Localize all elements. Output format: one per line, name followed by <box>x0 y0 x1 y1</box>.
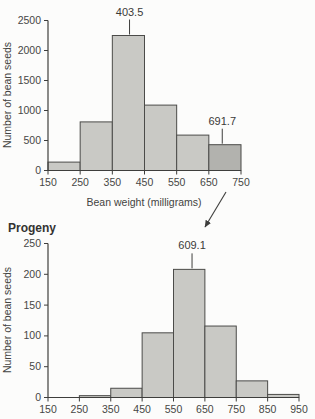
histogram-bar-450-550 <box>142 333 173 398</box>
histogram-bar-250-350 <box>80 122 112 171</box>
progeny-histogram: 0501001502002501502503504505506507508509… <box>23 237 307 415</box>
progeny-chart-title: Progeny <box>8 221 56 235</box>
x-tick-label: 150 <box>39 403 57 415</box>
histogram-bar-150-250 <box>48 162 80 170</box>
histogram-bar-550-650 <box>177 135 209 170</box>
y-tick-label: 1000 <box>18 104 42 116</box>
x-tick-label: 350 <box>102 403 120 415</box>
y-tick-label: 1500 <box>18 74 42 86</box>
parents-y-axis-label: Number of bean seeds <box>1 42 13 148</box>
histogram-bar-650-750 <box>209 145 241 171</box>
histogram-bar-650-750 <box>205 326 236 397</box>
y-tick-label: 0 <box>35 391 41 403</box>
x-tick-label: 850 <box>259 403 277 415</box>
histogram-bar-750-850 <box>236 381 267 398</box>
x-tick-label: 550 <box>165 403 183 415</box>
parents-histogram: 0500100015002000250015025035045055065075… <box>18 6 250 188</box>
parents-x-axis-label: Bean weight (milligrams) <box>87 196 202 208</box>
y-tick-label: 50 <box>29 360 41 372</box>
x-tick-label: 250 <box>71 176 89 188</box>
x-tick-label: 550 <box>168 176 186 188</box>
y-tick-label: 250 <box>23 237 41 249</box>
x-tick-label: 750 <box>227 403 245 415</box>
mean-value-label: 691.7 <box>208 115 236 127</box>
figure-page: Parents 05001000150020002500150250350450… <box>0 0 315 419</box>
x-tick-label: 450 <box>133 403 151 415</box>
x-tick-label: 650 <box>200 176 218 188</box>
x-tick-label: 450 <box>136 176 154 188</box>
histogram-bar-450-550 <box>145 105 177 170</box>
x-tick-label: 150 <box>39 176 57 188</box>
x-tick-label: 650 <box>196 403 214 415</box>
histogram-bar-350-450 <box>111 388 142 397</box>
y-tick-label: 100 <box>23 329 41 341</box>
mean-value-label: 403.5 <box>116 6 144 18</box>
histogram-bar-350-450 <box>112 36 144 171</box>
y-tick-label: 0 <box>35 164 41 176</box>
progeny-y-axis-label: Number of bean seeds <box>1 267 13 373</box>
x-tick-label: 750 <box>232 176 250 188</box>
x-tick-label: 950 <box>290 403 308 415</box>
y-tick-label: 2000 <box>18 44 42 56</box>
y-tick-label: 2500 <box>18 14 42 26</box>
y-tick-label: 500 <box>23 134 41 146</box>
selection-arrow <box>205 192 226 227</box>
mean-value-label: 609.1 <box>178 239 206 251</box>
x-tick-label: 350 <box>104 176 122 188</box>
x-tick-label: 250 <box>71 403 89 415</box>
y-tick-label: 150 <box>23 299 41 311</box>
bean-weight-histograms-figure: 0500100015002000250015025035045055065075… <box>0 0 315 419</box>
histogram-bar-550-650 <box>174 269 205 397</box>
y-tick-label: 200 <box>23 268 41 280</box>
